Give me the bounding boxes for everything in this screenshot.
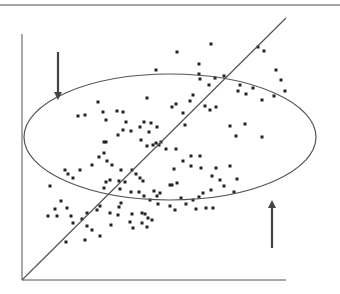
- data-point: [212, 207, 215, 210]
- data-point: [176, 51, 179, 54]
- data-point: [103, 152, 106, 155]
- data-point: [171, 106, 174, 109]
- data-point: [117, 134, 120, 137]
- data-points: [47, 43, 287, 244]
- data-point: [138, 191, 141, 194]
- data-point: [105, 119, 108, 122]
- data-point: [211, 175, 214, 178]
- data-point: [215, 167, 218, 170]
- data-point: [192, 94, 195, 97]
- data-point: [219, 179, 222, 182]
- data-point: [118, 206, 121, 209]
- data-point: [198, 63, 201, 66]
- data-point: [280, 79, 283, 82]
- data-point: [47, 215, 50, 218]
- data-point: [86, 225, 89, 228]
- data-point: [144, 213, 147, 216]
- confidence-ellipse: [24, 74, 316, 200]
- data-point: [237, 90, 240, 93]
- data-point: [200, 167, 203, 170]
- data-point: [110, 224, 113, 227]
- data-point: [210, 43, 213, 46]
- data-point: [119, 188, 122, 191]
- data-point: [56, 215, 59, 218]
- data-point: [139, 126, 142, 129]
- data-point: [244, 123, 247, 126]
- data-point: [109, 179, 112, 182]
- data-point: [141, 212, 144, 215]
- data-point: [99, 205, 102, 208]
- data-point: [77, 115, 80, 118]
- data-point: [54, 208, 57, 211]
- data-point: [99, 235, 102, 238]
- data-point: [284, 90, 287, 93]
- data-point: [66, 207, 69, 210]
- data-point: [261, 136, 264, 139]
- data-point: [261, 99, 264, 102]
- data-point: [130, 191, 133, 194]
- down-arrow-icon: [54, 52, 62, 100]
- data-point: [235, 135, 238, 138]
- data-point: [130, 130, 133, 133]
- data-point: [204, 105, 207, 108]
- data-point: [98, 156, 101, 159]
- data-point: [67, 173, 70, 176]
- axes: [22, 34, 286, 280]
- data-point: [70, 215, 73, 218]
- data-point: [105, 141, 108, 144]
- data-point: [120, 169, 123, 172]
- data-point: [229, 125, 232, 128]
- data-point: [105, 181, 108, 184]
- data-point: [140, 139, 143, 142]
- data-point: [143, 121, 146, 124]
- data-point: [223, 185, 226, 188]
- data-point: [96, 209, 99, 212]
- data-point: [146, 226, 149, 229]
- data-point: [236, 178, 239, 181]
- data-point: [190, 155, 193, 158]
- data-point: [143, 195, 146, 198]
- data-point: [150, 122, 153, 125]
- data-point: [223, 75, 226, 78]
- data-point: [185, 203, 188, 206]
- data-point: [106, 160, 109, 163]
- data-point: [153, 190, 156, 193]
- data-point: [273, 95, 276, 98]
- data-point: [120, 202, 123, 205]
- data-point: [208, 84, 211, 87]
- data-point: [65, 241, 68, 244]
- data-point: [199, 78, 202, 81]
- data-point: [198, 196, 201, 199]
- data-point: [180, 197, 183, 200]
- data-point: [146, 97, 149, 100]
- data-point: [79, 169, 82, 172]
- data-point: [132, 227, 135, 230]
- data-point: [189, 100, 192, 103]
- data-point: [109, 212, 112, 215]
- data-point: [129, 221, 132, 224]
- data-point: [195, 208, 198, 211]
- data-point: [169, 184, 172, 187]
- data-point: [263, 50, 266, 53]
- data-point: [275, 69, 278, 72]
- data-point: [103, 187, 106, 190]
- data-point: [84, 114, 87, 117]
- data-point: [176, 182, 179, 185]
- data-point: [124, 181, 127, 184]
- data-point: [165, 148, 168, 151]
- data-point: [102, 111, 105, 114]
- data-point: [156, 195, 159, 198]
- data-point: [117, 214, 120, 217]
- data-point: [209, 109, 212, 112]
- data-point: [122, 111, 125, 114]
- data-point: [184, 124, 187, 127]
- scatter-diagram: [0, 0, 340, 294]
- data-point: [122, 129, 125, 132]
- data-point: [125, 121, 128, 124]
- data-point: [202, 192, 205, 195]
- data-point: [151, 219, 154, 222]
- data-point: [84, 239, 87, 242]
- data-point: [182, 112, 185, 115]
- data-point: [72, 177, 75, 180]
- data-point: [215, 106, 218, 109]
